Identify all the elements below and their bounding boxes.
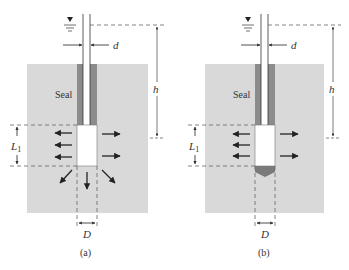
water-level-icon — [242, 17, 254, 31]
l1-label: L1 — [10, 140, 21, 154]
seal-label: Seal — [55, 89, 72, 100]
water-level-icon — [64, 17, 76, 31]
seal-left — [77, 64, 83, 125]
d-label: d — [291, 39, 297, 51]
d-label: d — [113, 39, 119, 51]
seal-right — [90, 64, 97, 125]
panel-a: d h Seal L1 D (a) — [10, 14, 165, 259]
h-label: h — [153, 83, 159, 95]
standpipe — [83, 14, 90, 125]
l1-label: L1 — [188, 140, 199, 154]
caption-b: (b) — [258, 247, 270, 259]
cavity — [255, 125, 275, 166]
seal-label: Seal — [233, 89, 250, 100]
h-label: h — [329, 83, 335, 95]
permeameter-figure: d h Seal L1 D (a) — [0, 0, 349, 270]
standpipe — [261, 14, 268, 125]
seal-right — [268, 64, 275, 125]
panel-b: d h Seal L1 D (b) — [188, 14, 341, 259]
cavity — [77, 125, 97, 166]
D-label: D — [82, 228, 91, 240]
seal-left — [255, 64, 261, 125]
caption-a: (a) — [80, 247, 91, 259]
D-label: D — [260, 228, 269, 240]
